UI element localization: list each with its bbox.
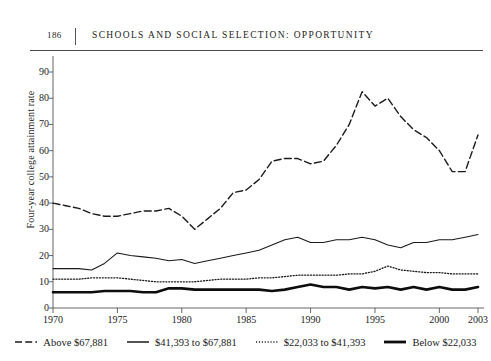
header-divider <box>75 28 76 45</box>
chart-legend: Above $67,881$41,393 to $67,881$22,033 t… <box>0 330 491 354</box>
legend-item[interactable]: Below $22,033 <box>383 337 476 348</box>
series-line-3 <box>53 284 478 292</box>
plot-area <box>0 46 491 321</box>
header-title: SCHOOLS AND SOCIAL SELECTION: OPPORTUNIT… <box>92 30 374 40</box>
legend-swatch-dashed-icon <box>14 337 38 347</box>
running-header: 186 SCHOOLS AND SOCIAL SELECTION: OPPORT… <box>0 14 491 36</box>
series-line-1 <box>53 235 478 270</box>
legend-item[interactable]: $22,033 to $41,393 <box>255 337 366 348</box>
legend-label: Above $67,881 <box>43 337 108 348</box>
series-line-2 <box>53 266 478 282</box>
legend-label: Below $22,033 <box>412 337 476 348</box>
legend-swatch-solid-icon <box>126 337 150 347</box>
legend-label: $22,033 to $41,393 <box>284 337 366 348</box>
series-line-0 <box>53 92 478 230</box>
legend-swatch-thick-icon <box>383 337 407 347</box>
legend-item[interactable]: Above $67,881 <box>14 337 108 348</box>
page: 186 SCHOOLS AND SOCIAL SELECTION: OPPORT… <box>0 0 491 361</box>
page-number: 186 <box>47 30 62 40</box>
legend-item[interactable]: $41,393 to $67,881 <box>126 337 237 348</box>
line-chart: Four-year college attainment rate 010203… <box>0 46 491 321</box>
legend-swatch-dotted-icon <box>255 337 279 347</box>
legend-label: $41,393 to $67,881 <box>155 337 237 348</box>
